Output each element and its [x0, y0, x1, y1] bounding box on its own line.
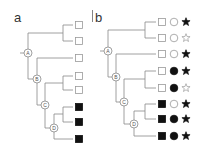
circle-filled-icon: [170, 84, 178, 92]
tip: [159, 132, 191, 140]
tip: [159, 84, 191, 92]
circle-filled-icon: [170, 67, 178, 75]
star-filled-icon: [182, 50, 190, 58]
panel-b-tree: [100, 22, 156, 136]
node-b: B: [33, 75, 41, 83]
circle-open-icon: [170, 34, 178, 42]
square-open-icon: [159, 68, 166, 75]
panel-a-tree: [20, 25, 73, 139]
panel-a-nodes: A B C D: [24, 49, 58, 132]
node-a: A: [104, 47, 112, 55]
square-filled-icon: [159, 133, 166, 140]
node-d: D: [50, 124, 58, 132]
panel-b-nodes: A B C D: [104, 47, 138, 128]
tip: [159, 34, 191, 42]
tip: [76, 136, 83, 143]
circle-open-icon: [170, 18, 178, 26]
node-d: D: [130, 120, 138, 128]
node-c: C: [120, 98, 128, 106]
square-open-icon: [159, 51, 166, 58]
tip: [159, 18, 191, 26]
star-filled-icon: [182, 132, 190, 140]
tip: [76, 55, 83, 62]
square-filled-icon: [76, 104, 83, 111]
panel-a-tips: [76, 22, 83, 143]
star-filled-icon: [182, 115, 190, 123]
tip: [76, 22, 83, 29]
tip: [76, 104, 83, 111]
circle-open-icon: [170, 100, 178, 108]
circle-open-icon: [170, 50, 178, 58]
square-filled-icon: [76, 119, 83, 126]
tip: [159, 50, 191, 58]
tip: [76, 119, 83, 126]
node-b: B: [112, 73, 120, 81]
node-label: D: [52, 125, 56, 131]
tip: [159, 115, 191, 123]
square-open-icon: [159, 19, 166, 26]
square-filled-icon: [76, 136, 83, 143]
square-filled-icon: [159, 101, 166, 108]
star-open-icon: [182, 34, 190, 42]
square-open-icon: [76, 38, 83, 45]
star-open-icon: [182, 84, 190, 92]
star-filled-icon: [182, 67, 190, 75]
node-c: C: [41, 101, 49, 109]
tip: [159, 67, 191, 75]
square-open-icon: [76, 55, 83, 62]
square-open-icon: [76, 73, 83, 80]
node-a: A: [24, 49, 32, 57]
tip: [76, 87, 83, 94]
star-filled-icon: [182, 18, 190, 26]
square-open-icon: [76, 87, 83, 94]
square-open-icon: [159, 85, 166, 92]
star-filled-icon: [182, 100, 190, 108]
tip: [76, 38, 83, 45]
square-open-icon: [76, 22, 83, 29]
node-label: C: [43, 102, 47, 108]
tip: [76, 73, 83, 80]
square-open-icon: [159, 35, 166, 42]
node-label: C: [122, 99, 126, 105]
circle-filled-icon: [170, 132, 178, 140]
phylogeny-diagram: A B C D A B C D: [0, 0, 199, 156]
panel-b-tips: [159, 18, 191, 140]
node-label: D: [132, 121, 136, 127]
square-filled-icon: [159, 116, 166, 123]
tip: [159, 100, 191, 108]
circle-filled-icon: [170, 115, 178, 123]
